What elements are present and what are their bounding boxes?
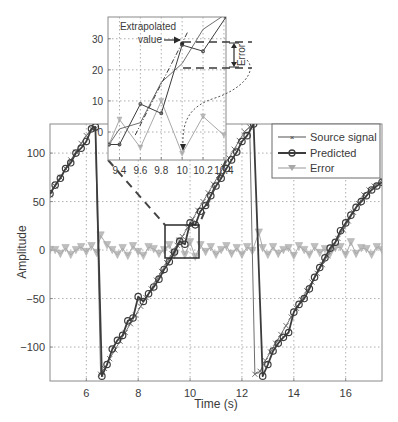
x-tick-label: 8 xyxy=(135,387,141,399)
y-tick-label: 0 xyxy=(39,244,45,256)
x-tick-label: 9.8 xyxy=(154,165,168,176)
y-tick-label: 0 xyxy=(97,127,103,138)
legend: × Source signal Predicted Error xyxy=(272,124,380,178)
x-tick-label: 9.6 xyxy=(133,165,147,176)
x-axis-label: Time (s) xyxy=(194,397,238,411)
x-tick-label: 10.4 xyxy=(214,165,234,176)
y-tick-label: −100 xyxy=(20,341,45,353)
x-tick-label: 6 xyxy=(83,387,89,399)
y-axis-label: Amplitude xyxy=(15,225,29,279)
legend-label-source: Source signal xyxy=(310,131,377,143)
extrapolated-label-line1: Extrapolated xyxy=(120,21,176,32)
x-tick-label: 16 xyxy=(340,387,352,399)
y-tick-label: 50 xyxy=(33,196,45,208)
chart-canvas: 6810121416−100−50050100 Time (s) Amplitu… xyxy=(0,0,398,422)
x-marker-icon: × xyxy=(290,133,295,142)
extrapolated-label-line2: value xyxy=(138,34,162,45)
error-label: Error xyxy=(236,43,247,66)
legend-label-predicted: Predicted xyxy=(310,147,356,159)
y-tick-label: 10 xyxy=(92,96,104,107)
y-tick-label: 100 xyxy=(27,147,45,159)
legend-label-error: Error xyxy=(310,162,335,174)
inset-plot: 9.49.69.81010.210.40102030 Extrapolated … xyxy=(92,14,234,176)
y-tick-label: 30 xyxy=(92,34,104,45)
x-tick-label: 9.4 xyxy=(113,165,127,176)
y-tick-label: 20 xyxy=(92,65,104,76)
x-tick-label: 10 xyxy=(177,165,189,176)
legend-item-source: × Source signal xyxy=(278,131,377,143)
x-tick-label: 10.2 xyxy=(193,165,213,176)
figure: 6810121416−100−50050100 Time (s) Amplitu… xyxy=(0,0,398,422)
x-tick-label: 14 xyxy=(288,387,300,399)
y-tick-label: −50 xyxy=(26,293,45,305)
